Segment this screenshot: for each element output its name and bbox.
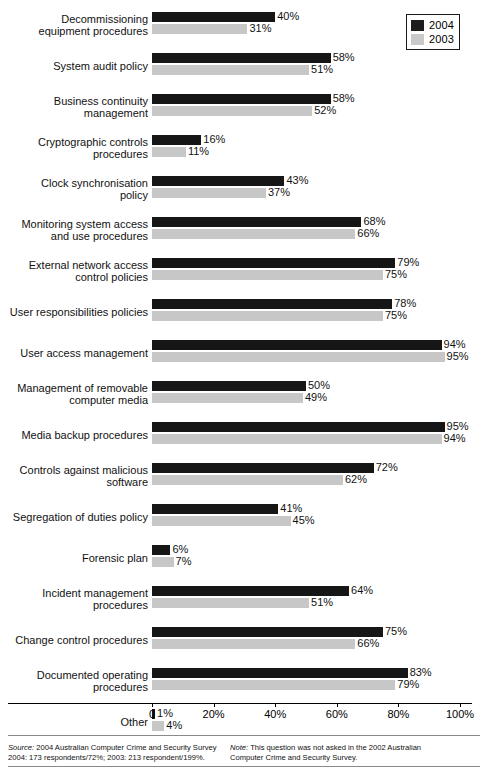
bar-row: 7% — [152, 557, 488, 567]
bar-value-label: 94% — [442, 432, 466, 445]
bar-row: 40% — [152, 12, 488, 22]
bar-2003 — [152, 557, 174, 567]
x-axis-tick-label: 0 — [149, 708, 155, 720]
category-label: Controls against malicious software — [0, 459, 148, 488]
x-axis-tick — [460, 703, 461, 707]
bar-row: 37% — [152, 188, 488, 198]
bar-row: 94% — [152, 340, 488, 350]
bar-2003 — [152, 393, 303, 403]
bar-pair: 79%75% — [152, 258, 488, 288]
bar-group: User responsibilities policies78%75% — [0, 295, 488, 336]
bar-2003 — [152, 24, 247, 34]
category-label: External network access control policies — [0, 254, 148, 283]
bar-row: 95% — [152, 352, 488, 362]
bar-2004 — [152, 176, 284, 186]
footer-source-line1: Source: 2004 Australian Computer Crime a… — [8, 743, 230, 753]
bar-group: Documented operating procedures83%79% — [0, 664, 488, 705]
category-label: Decommissioning equipment procedures — [0, 8, 148, 37]
bar-value-label: 79% — [395, 678, 419, 691]
bar-2004 — [152, 422, 445, 432]
bar-2004 — [152, 258, 395, 268]
bar-pair: 78%75% — [152, 299, 488, 329]
bar-group: Management of removable computer media50… — [0, 377, 488, 418]
bar-2003 — [152, 147, 186, 157]
bar-2004 — [152, 504, 278, 514]
bar-2004 — [152, 545, 170, 555]
bar-group: Business continuity management58%52% — [0, 90, 488, 131]
bar-2003 — [152, 475, 343, 485]
category-label: Change control procedures — [0, 623, 148, 646]
footer-source-line2: 2004: 173 respondents/72%; 2003: 213 res… — [8, 753, 230, 763]
bar-row: 45% — [152, 516, 488, 526]
bar-value-label: 49% — [303, 391, 327, 404]
bar-pair: 6%7% — [152, 545, 488, 575]
bar-group: Clock synchronisation policy43%37% — [0, 172, 488, 213]
x-axis-tick — [337, 703, 338, 707]
bar-2004 — [152, 299, 392, 309]
bar-value-label: 66% — [355, 227, 379, 240]
bar-2003 — [152, 229, 355, 239]
bar-row: 75% — [152, 627, 488, 637]
bar-2003 — [152, 188, 266, 198]
category-label: Management of removable computer media — [0, 377, 148, 406]
bar-group: Cryptographic controls procedures16%11% — [0, 131, 488, 172]
bar-row: 58% — [152, 53, 488, 63]
x-axis-tick-label: 100% — [446, 708, 474, 720]
footer-source-text: 2004 Australian Computer Crime and Secur… — [34, 743, 216, 752]
bar-2003 — [152, 434, 442, 444]
bar-pair: 72%62% — [152, 463, 488, 493]
bar-value-label: 52% — [312, 104, 336, 117]
bar-row: 66% — [152, 639, 488, 649]
chart-plot-area: Decommissioning equipment procedures40%3… — [0, 8, 488, 746]
category-label: User access management — [0, 336, 148, 359]
bar-value-label: 7% — [174, 555, 192, 568]
bar-2004 — [152, 53, 331, 63]
bar-row: 58% — [152, 94, 488, 104]
footer-source: Source: 2004 Australian Computer Crime a… — [8, 743, 230, 762]
bar-2004 — [152, 586, 349, 596]
bar-row: 79% — [152, 258, 488, 268]
bar-group: Monitoring system access and use procedu… — [0, 213, 488, 254]
category-label: Monitoring system access and use procedu… — [0, 213, 148, 242]
bar-value-label: 45% — [291, 514, 315, 527]
bar-row: 95% — [152, 422, 488, 432]
bar-row: 41% — [152, 504, 488, 514]
category-label: Forensic plan — [0, 541, 148, 564]
bar-row: 43% — [152, 176, 488, 186]
x-axis-tick — [214, 703, 215, 707]
bar-2003 — [152, 639, 355, 649]
footer-source-key: Source: — [8, 743, 34, 752]
bar-value-label: 72% — [374, 461, 398, 474]
footer-rule-bottom — [8, 766, 480, 767]
bar-2003 — [152, 598, 309, 608]
bar-pair: 58%52% — [152, 94, 488, 124]
bar-pair: 58%51% — [152, 53, 488, 83]
category-label: Cryptographic controls procedures — [0, 131, 148, 160]
bar-group: External network access control policies… — [0, 254, 488, 295]
chart-figure: 2004 2003 Decommissioning equipment proc… — [0, 0, 488, 771]
x-axis-tick-label: 60% — [326, 708, 348, 720]
x-axis-tick — [398, 703, 399, 707]
bar-pair: 83%79% — [152, 668, 488, 698]
bar-value-label: 37% — [266, 186, 290, 199]
bar-row: 75% — [152, 311, 488, 321]
bar-pair: 75%66% — [152, 627, 488, 657]
bar-row: 66% — [152, 229, 488, 239]
bar-row: 52% — [152, 106, 488, 116]
bar-value-label: 75% — [383, 309, 407, 322]
bar-value-label: 31% — [247, 22, 271, 35]
bar-row: 16% — [152, 135, 488, 145]
footer-note-key: Note: — [230, 743, 248, 752]
bar-2004 — [152, 627, 383, 637]
bar-group: System audit policy58%51% — [0, 49, 488, 90]
bar-pair: 95%94% — [152, 422, 488, 452]
bar-group: Incident management procedures64%51% — [0, 582, 488, 623]
bar-pair: 94%95% — [152, 340, 488, 370]
bar-2003 — [152, 680, 395, 690]
bar-pair: 64%51% — [152, 586, 488, 616]
bar-group: Decommissioning equipment procedures40%3… — [0, 8, 488, 49]
bar-value-label: 95% — [445, 350, 469, 363]
footer-rule-top — [8, 735, 480, 736]
bar-value-label: 64% — [349, 584, 373, 597]
bar-2004 — [152, 12, 275, 22]
